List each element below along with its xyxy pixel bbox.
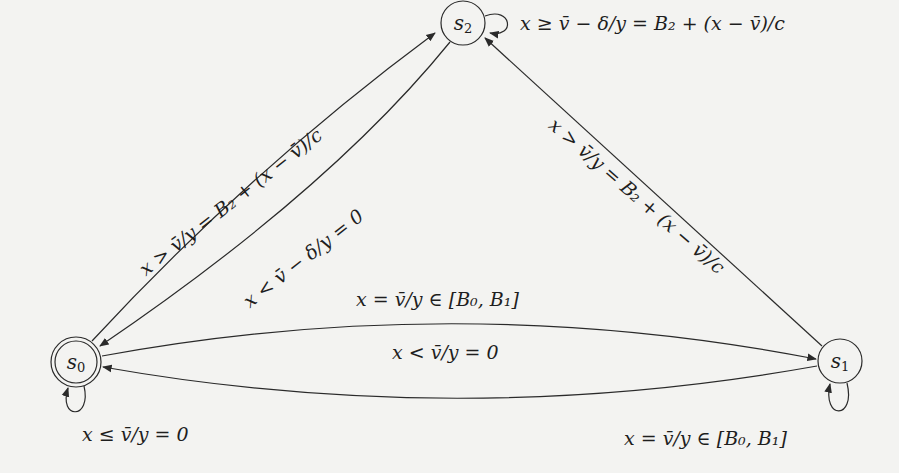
diagram-edges <box>0 0 899 473</box>
state-s1: s1 <box>831 351 850 373</box>
state-subscript: 1 <box>841 359 849 374</box>
edge-s1-to-s0 <box>103 366 817 398</box>
state-label: s <box>454 11 464 35</box>
edge-s1-self-loop <box>829 383 849 411</box>
label-s0-to-s1: x = v̄/y ∈ [B₀, B₁] <box>356 290 519 309</box>
edge-s1-to-s2 <box>485 38 822 346</box>
edge-s2-self-loop <box>485 14 508 33</box>
label-s2-self-loop: x ≥ v̄ − δ/y = B₂ + (x − v̄)/c <box>520 14 785 33</box>
state-subscript: 2 <box>464 21 472 36</box>
label-s0-self-loop: x ≤ v̄/y = 0 <box>82 425 189 444</box>
label-s1-self-loop: x = v̄/y ∈ [B₀, B₁] <box>624 429 787 448</box>
state-label: s <box>831 349 841 373</box>
state-diagram: s2 s0 s1 x ≥ v̄ − δ/y = B₂ + (x − v̄)/c … <box>0 0 899 473</box>
state-s0: s0 <box>67 352 86 374</box>
state-subscript: 0 <box>77 360 85 375</box>
state-s2: s2 <box>454 13 473 35</box>
state-label: s <box>67 350 77 374</box>
edge-s0-self-loop <box>66 386 85 412</box>
label-s1-to-s0: x < v̄/y = 0 <box>392 343 499 362</box>
